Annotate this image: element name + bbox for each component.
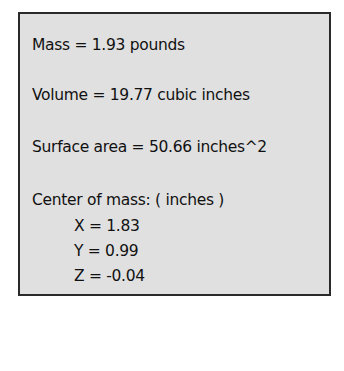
mass-properties-panel: Mass = 1.93 pounds Volume = 19.77 cubic … [18, 12, 331, 296]
center-of-mass-x: X = 1.83 [74, 217, 140, 235]
center-of-mass-z: Z = -0.04 [74, 267, 145, 285]
mass-value: Mass = 1.93 pounds [32, 36, 185, 54]
surface-area-value: Surface area = 50.66 inches^2 [32, 138, 267, 156]
center-of-mass-y: Y = 0.99 [74, 242, 138, 260]
volume-value: Volume = 19.77 cubic inches [32, 86, 250, 104]
center-of-mass-label: Center of mass: ( inches ) [32, 191, 224, 209]
